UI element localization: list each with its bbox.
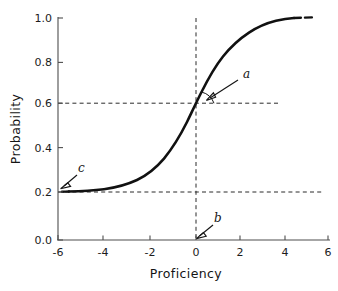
x-tick-label-2: -4 xyxy=(98,246,109,259)
annotation-c-label: c xyxy=(78,161,85,175)
annotation-a-arrowhead xyxy=(206,93,215,101)
reference-lines xyxy=(58,18,324,240)
x-axis-title: Proficiency xyxy=(150,266,223,281)
x-tick-label-1: -6 xyxy=(53,246,64,259)
y-axis-title: Probability xyxy=(8,94,23,165)
y-axis-ticks: 1.0 0.8 0.6 0.4 0.2 0.0 xyxy=(35,12,64,247)
annotation-c-arrowhead xyxy=(61,183,71,189)
x-axis-ticks: -6 -4 -2 0 2 4 6 xyxy=(53,235,332,259)
icc-curve-upper-tail xyxy=(294,17,313,18)
annotation-b-label: b xyxy=(214,211,222,225)
x-tick-label-4: 0 xyxy=(193,246,200,259)
item-characteristic-curve-figure: 1.0 0.8 0.6 0.4 0.2 0.0 -6 -4 -2 0 2 4 6… xyxy=(0,0,338,291)
y-tick-label-6: 0.0 xyxy=(35,234,53,247)
x-tick-label-6: 4 xyxy=(282,246,289,259)
y-tick-label-2: 0.8 xyxy=(35,56,53,69)
y-tick-label-5: 0.2 xyxy=(35,186,53,199)
x-tick-label-5: 2 xyxy=(237,246,244,259)
annotation-c: c xyxy=(61,161,85,189)
x-tick-label-7: 6 xyxy=(325,246,332,259)
y-tick-label-4: 0.4 xyxy=(35,142,53,155)
chart-canvas: 1.0 0.8 0.6 0.4 0.2 0.0 -6 -4 -2 0 2 4 6… xyxy=(0,0,338,291)
y-tick-label-3: 0.6 xyxy=(35,97,53,110)
icc-curve-group xyxy=(60,17,313,191)
annotation-a-label: a xyxy=(243,67,250,81)
axes-spines xyxy=(57,17,330,240)
x-tick-label-3: -2 xyxy=(145,246,156,259)
annotation-a: a xyxy=(202,67,251,103)
y-tick-label-1: 1.0 xyxy=(35,12,53,25)
icc-curve-path xyxy=(69,18,294,192)
annotation-b: b xyxy=(196,211,221,239)
annotation-b-arrowhead xyxy=(196,233,206,239)
